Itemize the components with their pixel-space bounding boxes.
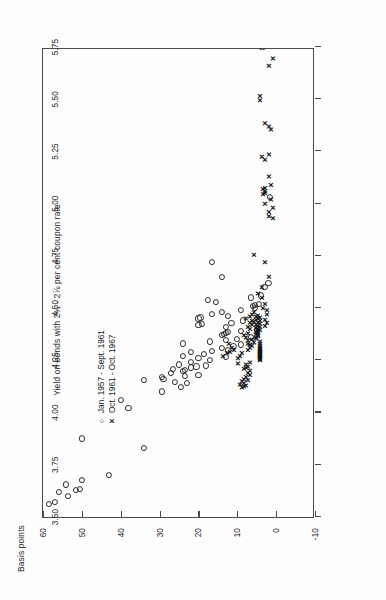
legend-label-circle: Jan. 1957 - Sept. 1961 xyxy=(97,330,108,413)
data-point-circle xyxy=(63,482,69,488)
rotated-figure-wrapper: Basis points 3.503.754.004.254.504.755.0… xyxy=(0,0,386,600)
data-point-circle xyxy=(195,372,201,378)
data-point-circle xyxy=(180,353,186,359)
data-point-cross xyxy=(263,120,270,127)
data-point-circle xyxy=(178,384,184,390)
data-point-cross xyxy=(251,251,258,258)
data-point-circle xyxy=(209,311,215,317)
y-tick-label: 40 xyxy=(116,528,125,537)
x-tick-label: 4.00 xyxy=(51,404,60,420)
y-tick-label: 60 xyxy=(39,528,48,537)
x-tick-mark xyxy=(315,307,321,308)
data-point-cross xyxy=(267,273,274,280)
data-point-circle xyxy=(188,349,194,355)
legend-item-cross: Oct. 1961 - Oct. 1967 xyxy=(108,330,119,425)
x-tick-mark xyxy=(315,203,321,204)
legend-circle-icon xyxy=(97,417,108,425)
data-point-cross xyxy=(267,62,274,69)
data-point-circle xyxy=(172,379,178,385)
data-point-cross xyxy=(257,92,264,99)
data-point-circle xyxy=(228,320,234,326)
data-point-circle xyxy=(52,499,58,505)
data-point-circle xyxy=(79,436,85,442)
data-point-cross xyxy=(251,309,258,316)
data-point-circle xyxy=(118,397,124,403)
plot-surface xyxy=(43,49,313,517)
plot-frame: 3.503.754.004.254.504.755.005.255.505.75… xyxy=(42,48,314,518)
data-point-circle xyxy=(55,489,61,495)
data-point-circle xyxy=(205,297,211,303)
x-tick-label: 3.75 xyxy=(51,457,60,473)
y-tick-mark xyxy=(160,511,161,517)
y-tick-mark xyxy=(276,511,277,517)
data-point-cross xyxy=(269,181,276,188)
legend-item-circle: Jan. 1957 - Sept. 1961 xyxy=(97,330,108,425)
data-point-circle xyxy=(195,355,201,361)
data-point-circle xyxy=(207,357,213,363)
x-tick-label: 5.25 xyxy=(51,143,60,159)
x-tick-mark xyxy=(315,46,321,47)
chart-legend: Jan. 1957 - Sept. 1961 Oct. 1961 - Oct. … xyxy=(97,330,118,425)
y-tick-mark xyxy=(237,511,238,517)
data-point-cross xyxy=(270,55,277,62)
data-point-circle xyxy=(219,274,225,280)
x-tick-mark xyxy=(315,464,321,465)
x-tick-mark xyxy=(315,411,321,412)
y-tick-label: 30 xyxy=(155,528,164,537)
y-tick-label: 0 xyxy=(272,528,281,533)
scatter-chart: Basis points 3.503.754.004.254.504.755.0… xyxy=(28,26,358,574)
data-point-circle xyxy=(77,486,83,492)
x-tick-label: 3.50 xyxy=(51,509,60,525)
data-point-cross xyxy=(263,258,270,265)
data-point-circle xyxy=(79,477,85,483)
data-point-circle xyxy=(201,351,207,357)
legend-cross-icon xyxy=(108,417,119,425)
data-point-circle xyxy=(125,405,131,411)
data-point-circle xyxy=(176,361,182,367)
data-point-circle xyxy=(199,321,205,327)
x-tick-mark xyxy=(315,150,321,151)
y-axis-title: Basis points xyxy=(16,525,26,572)
data-point-circle xyxy=(193,364,199,370)
data-point-circle xyxy=(207,338,213,344)
data-point-circle xyxy=(141,445,147,451)
data-point-circle xyxy=(141,377,147,383)
data-point-cross xyxy=(267,173,274,180)
x-tick-mark xyxy=(315,98,321,99)
x-axis-title: Yield on bonds with 2¾ - 2⅞ per cent cou… xyxy=(52,204,62,396)
data-point-circle xyxy=(197,314,203,320)
x-tick-label: 5.75 xyxy=(51,39,60,55)
data-point-circle xyxy=(184,380,190,386)
data-point-circle xyxy=(170,366,176,372)
y-tick-label: 20 xyxy=(194,528,203,537)
y-tick-mark xyxy=(43,511,44,517)
data-point-circle xyxy=(224,313,230,319)
data-point-circle xyxy=(106,472,112,478)
data-point-circle xyxy=(209,259,215,265)
y-tick-label: 50 xyxy=(77,528,86,537)
y-tick-label: 10 xyxy=(233,528,242,537)
data-point-cross xyxy=(270,204,277,211)
data-point-circle xyxy=(158,389,164,395)
y-tick-mark xyxy=(315,511,316,517)
data-point-circle xyxy=(209,348,215,354)
data-point-cross xyxy=(247,359,254,366)
x-tick-mark xyxy=(315,359,321,360)
x-tick-label: 5.50 xyxy=(51,91,60,107)
data-point-circle xyxy=(238,307,244,313)
data-point-cross xyxy=(267,151,274,158)
y-tick-mark xyxy=(121,511,122,517)
data-point-cross xyxy=(259,284,266,291)
y-tick-mark xyxy=(82,511,83,517)
y-tick-mark xyxy=(198,511,199,517)
x-tick-mark xyxy=(315,255,321,256)
data-point-circle xyxy=(180,341,186,347)
y-tick-label: -10 xyxy=(311,528,320,540)
data-point-circle xyxy=(213,299,219,305)
data-point-circle xyxy=(203,362,209,368)
data-point-circle xyxy=(65,493,71,499)
figure-page: Basis points 3.503.754.004.254.504.755.0… xyxy=(0,0,386,600)
data-point-cross xyxy=(226,340,233,347)
legend-label-cross: Oct. 1961 - Oct. 1967 xyxy=(108,335,119,413)
